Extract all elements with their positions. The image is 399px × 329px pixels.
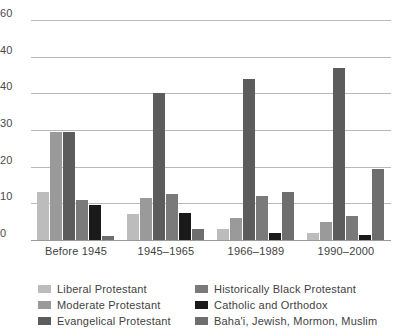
- legend-item: Moderate Protestant: [38, 297, 195, 313]
- bar: [102, 236, 114, 240]
- bar: [76, 200, 88, 240]
- bar-group: [217, 20, 295, 240]
- bar-group-bars: [307, 20, 384, 240]
- bar: [269, 233, 281, 240]
- gridline: [31, 240, 391, 241]
- legend-label: Baha'i, Jewish, Mormon, Muslim: [214, 315, 377, 327]
- y-axis-tick-label: 30: [0, 118, 26, 129]
- y-axis-tick-label: 40: [0, 81, 26, 92]
- y-axis-tick-label: 60: [0, 8, 26, 19]
- legend-item: Liberal Protestant: [38, 281, 195, 297]
- bar: [140, 198, 152, 240]
- y-axis-tick-label: 40: [0, 45, 26, 56]
- legend-swatch-icon: [195, 285, 208, 293]
- bar: [192, 229, 204, 240]
- legend-item: Historically Black Protestant: [195, 281, 393, 297]
- bar: [359, 235, 371, 241]
- bar: [230, 218, 242, 240]
- legend-swatch-icon: [195, 317, 208, 325]
- legend-swatch-icon: [38, 317, 51, 325]
- bar: [179, 213, 191, 241]
- legend-item: Catholic and Orthodox: [195, 297, 393, 313]
- y-axis-tick-label: 20: [0, 155, 26, 166]
- legend-item: Baha'i, Jewish, Mormon, Muslim: [195, 313, 393, 329]
- bar: [256, 196, 268, 240]
- legend-label: Catholic and Orthodox: [214, 299, 328, 311]
- bar-group: [127, 20, 205, 240]
- bar: [217, 229, 229, 240]
- y-axis-tick-label: 10: [0, 191, 26, 202]
- x-axis-category-label: 1945–1965: [115, 245, 217, 257]
- legend-label: Historically Black Protestant: [214, 283, 356, 295]
- bar-group-bars: [37, 20, 114, 240]
- legend-label: Moderate Protestant: [57, 299, 160, 311]
- legend-item: Evangelical Protestant: [38, 313, 195, 329]
- bar: [243, 79, 255, 240]
- legend-label: Liberal Protestant: [57, 283, 147, 295]
- bar: [333, 68, 345, 240]
- x-axis-category-label: 1966–1989: [205, 245, 307, 257]
- legend-swatch-icon: [195, 301, 208, 309]
- y-axis-tick-label: 0: [0, 228, 26, 239]
- bar: [346, 216, 358, 240]
- bar: [63, 132, 75, 240]
- plot-area: 6040403020100: [31, 20, 391, 240]
- bar: [127, 214, 139, 240]
- bar: [372, 169, 384, 241]
- bar: [50, 132, 62, 240]
- bar-group: [37, 20, 115, 240]
- chart-legend: Liberal ProtestantHistorically Black Pro…: [38, 281, 393, 329]
- x-axis-category-label: 1990–2000: [295, 245, 397, 257]
- x-axis-category-label: Before 1945: [25, 245, 127, 257]
- bar: [166, 194, 178, 240]
- legend-swatch-icon: [38, 285, 51, 293]
- legend-label: Evangelical Protestant: [57, 315, 171, 327]
- bar: [153, 93, 165, 240]
- bar-group-bars: [127, 20, 204, 240]
- bar-group-bars: [217, 20, 294, 240]
- bar: [307, 233, 319, 240]
- bar: [320, 222, 332, 240]
- bar: [37, 192, 49, 240]
- legend-swatch-icon: [38, 301, 51, 309]
- bar-group: [307, 20, 385, 240]
- bar: [282, 192, 294, 240]
- bar: [89, 205, 101, 240]
